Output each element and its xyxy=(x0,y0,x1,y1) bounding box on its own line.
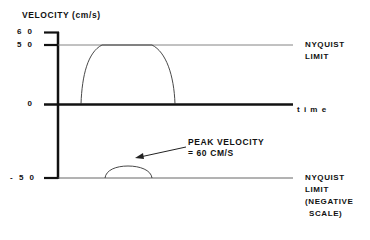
annotation-line1: PEAK VELOCITY xyxy=(188,137,264,148)
annotation-line2: = 60 CM/S xyxy=(188,148,264,159)
wrapped-hump xyxy=(105,166,152,178)
peak-velocity-annotation: PEAK VELOCITY = 60 CM/S xyxy=(188,137,264,159)
nyquist-upper-line1: NYQUIST xyxy=(305,39,345,51)
nyquist-upper-label: NYQUIST LIMIT xyxy=(305,39,345,63)
clipped-waveform xyxy=(81,45,175,104)
arrow-head-icon xyxy=(135,153,144,159)
nyquist-lower-line3: (NEGATIVE xyxy=(305,196,353,208)
nyquist-lower-line1: NYQUIST xyxy=(305,172,353,184)
annotation-arrow-line xyxy=(140,147,186,157)
nyquist-upper-line2: LIMIT xyxy=(305,51,345,63)
nyquist-lower-line2: LIMIT xyxy=(305,184,353,196)
nyquist-lower-label: NYQUIST LIMIT (NEGATIVE SCALE) xyxy=(305,172,353,220)
nyquist-lower-line4: SCALE) xyxy=(305,208,353,220)
x-axis-label: t i m e xyxy=(297,105,327,115)
